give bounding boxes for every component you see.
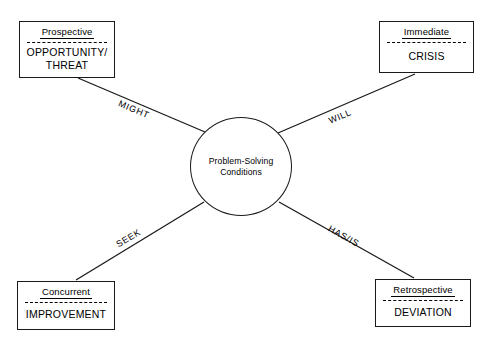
node-body-concurrent: IMPROVEMENT [18, 303, 114, 329]
connector-line-will [278, 74, 415, 133]
center-node-problem-solving-conditions[interactable]: Problem-Solving Conditions [190, 117, 292, 216]
node-retrospective[interactable]: Retrospective DEVIATION [375, 279, 471, 327]
node-prospective[interactable]: Prospective OPPORTUNITY/ THREAT [19, 21, 115, 78]
node-title-row: Retrospective [376, 280, 470, 297]
node-title-prospective: Prospective [40, 26, 95, 39]
node-body-retrospective: DEVIATION [376, 301, 470, 326]
node-body-line1: CRISIS [408, 50, 444, 63]
node-body-line1: OPPORTUNITY/ [27, 46, 108, 58]
node-title-immediate: Immediate [402, 26, 451, 39]
connector-line-might [78, 78, 205, 132]
node-title-concurrent: Concurrent [40, 286, 92, 299]
node-body-immediate: CRISIS [380, 43, 473, 72]
center-node-label-line2: Conditions [220, 167, 262, 177]
diagram-canvas: Prospective OPPORTUNITY/ THREAT Immediat… [0, 0, 493, 349]
node-immediate[interactable]: Immediate CRISIS [379, 21, 474, 73]
node-title-row: Concurrent [18, 282, 114, 299]
node-title-retrospective: Retrospective [391, 284, 454, 297]
node-body-line1: DEVIATION [394, 306, 452, 319]
node-body-line1: IMPROVEMENT [26, 308, 106, 321]
connector-line-seek [76, 202, 204, 280]
node-concurrent[interactable]: Concurrent IMPROVEMENT [17, 281, 115, 330]
node-title-row: Prospective [20, 22, 114, 39]
center-node-label: Problem-Solving Conditions [209, 156, 274, 177]
node-body-prospective: OPPORTUNITY/ THREAT [20, 43, 114, 77]
node-title-row: Immediate [380, 22, 473, 39]
node-body-line2: THREAT [46, 59, 88, 71]
center-node-label-line1: Problem-Solving [209, 156, 274, 166]
